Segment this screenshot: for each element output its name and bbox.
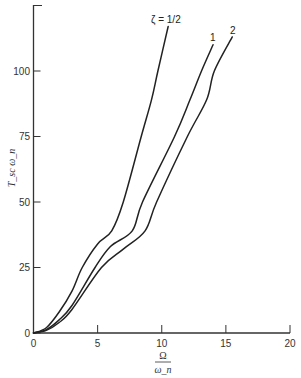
curve-series-0: [34, 26, 169, 333]
svg-text:ω_n: ω_n: [154, 364, 171, 375]
x-axis-label: Ω ω_n: [154, 350, 171, 375]
y-axis-label: T_sc ω_n: [6, 149, 17, 187]
y-tick-label: 100: [13, 66, 30, 77]
curve-series-1: [34, 45, 214, 333]
y-tick-label: 75: [19, 131, 31, 142]
x-tick-label: 10: [156, 338, 168, 349]
y-tick-label: 25: [19, 262, 31, 273]
y-tick-label: 0: [24, 328, 30, 339]
y-ticks: 0255075100: [13, 66, 40, 339]
x-tick-label: 15: [220, 338, 232, 349]
svg-text:Ω: Ω: [159, 350, 166, 361]
curve-label-zeta-2: 2: [230, 25, 236, 36]
chart: T_sc ω_n 0255075100 05101520 ζ = 1/2 1 2…: [0, 0, 301, 378]
curve-series-2: [34, 37, 233, 333]
x-tick-label: 20: [284, 338, 296, 349]
curves: [34, 26, 233, 333]
x-tick-label: 5: [95, 338, 101, 349]
svg-text:T_sc ω_n: T_sc ω_n: [6, 149, 17, 187]
curve-label-zeta-half: ζ = 1/2: [151, 14, 181, 26]
y-tick-label: 50: [19, 197, 31, 208]
x-tick-label: 0: [31, 338, 37, 349]
curve-label-zeta-1: 1: [210, 32, 216, 43]
x-ticks: 05101520: [31, 325, 296, 349]
